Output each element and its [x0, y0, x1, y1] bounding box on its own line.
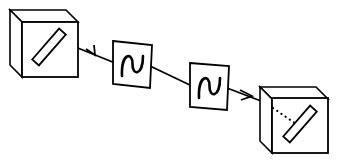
wave-plate-2	[190, 63, 229, 110]
diagram-canvas: Optical beam path between two polarizer …	[0, 0, 342, 166]
left-polarizer-box	[10, 10, 78, 77]
right-polarizer-box	[260, 87, 328, 153]
right-box-side-face	[260, 87, 272, 153]
left-box-side-face	[10, 10, 22, 77]
optics-diagram: Optical beam path between two polarizer …	[0, 0, 342, 166]
wave-plate-1	[113, 41, 152, 88]
beam-segment-2	[150, 66, 192, 86]
